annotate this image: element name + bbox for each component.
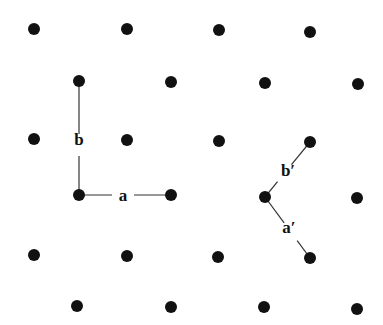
lattice-point: [259, 77, 271, 89]
lattice-point: [304, 136, 316, 148]
lattice-point: [304, 26, 316, 38]
lattice-point: [121, 23, 133, 35]
lattice-point: [28, 23, 40, 35]
vector-a-prime-label: a′: [282, 218, 295, 237]
lattice-point: [212, 251, 224, 263]
lattice-point: [165, 301, 177, 313]
lattice-point: [304, 252, 316, 264]
vector-a-label: a: [119, 186, 128, 205]
lattice-point: [71, 300, 83, 312]
vector-labels: bab′a′: [74, 130, 295, 237]
lattice-point: [213, 135, 225, 147]
lattice-point: [213, 24, 225, 36]
lattice-point: [28, 133, 40, 145]
vector-b-label: b: [74, 130, 83, 149]
lattice-point: [165, 76, 177, 88]
basis-vectors: [79, 81, 310, 258]
lattice-point: [121, 250, 133, 262]
vector-b-prime-label: b′: [281, 161, 295, 180]
lattice-point: [351, 303, 363, 315]
lattice-point: [121, 134, 133, 146]
lattice-point: [73, 189, 85, 201]
lattice-diagram: bab′a′: [0, 0, 383, 325]
lattice-point: [351, 192, 363, 204]
lattice-point: [28, 249, 40, 261]
lattice-point: [258, 301, 270, 313]
lattice-point: [352, 78, 364, 90]
lattice-point: [73, 75, 85, 87]
lattice-point: [259, 191, 271, 203]
lattice-point: [165, 189, 177, 201]
